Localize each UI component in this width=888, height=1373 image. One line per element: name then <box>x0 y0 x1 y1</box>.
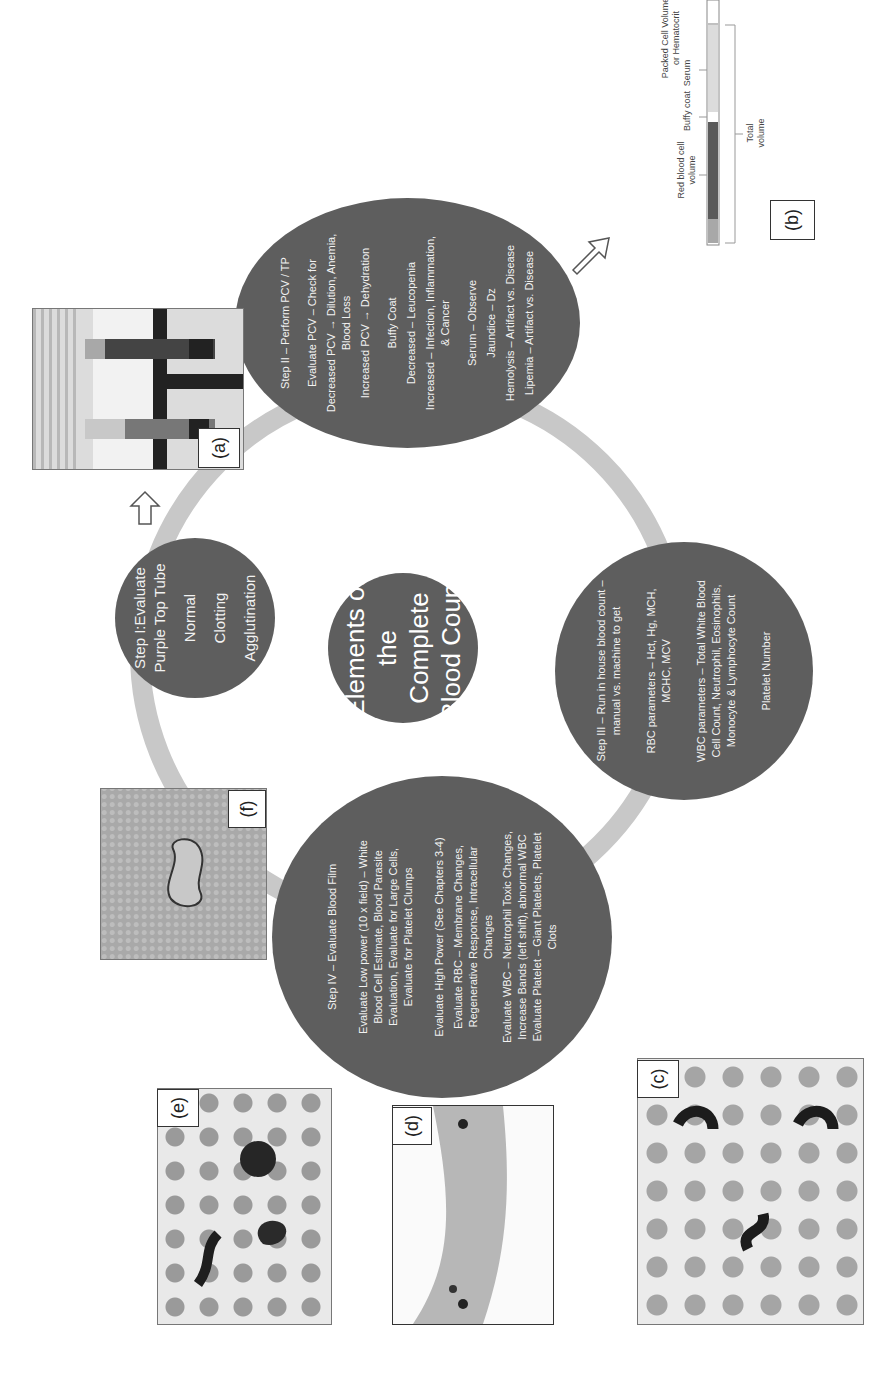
step2-line: Hemolysis – Artifact vs. Disease <box>503 245 518 402</box>
cbc-diagram-page: Elements of the Complete Blood Count Ste… <box>0 0 888 1373</box>
center-title-line: Blood Count <box>435 576 467 719</box>
step2-line: Serum – Observe <box>465 280 480 366</box>
cell-illustration <box>638 1059 863 1324</box>
neutrophil-smear-photo-c <box>637 1058 864 1325</box>
buffy-coat-label: Buffy coat <box>682 81 693 141</box>
arrow-icon <box>125 488 165 528</box>
step2-line: Jaundice – Dz <box>484 288 499 358</box>
step3-wbc: WBC parameters – Total White Blood <box>694 580 709 762</box>
step4-wbc: Increase Bands (left shift), abnormal WB… <box>515 834 530 1039</box>
step3-platelet: Platelet Number <box>759 632 774 711</box>
step2-line: & Cancer <box>438 300 453 346</box>
figure-label-b: (b) <box>770 200 815 240</box>
center-title-line: Complete <box>403 592 435 703</box>
step2-line: Decreased PCV → Dilution, Anemia, <box>324 234 339 413</box>
step4-low-power: Evaluate Low power (10 x field) – White <box>356 840 371 1034</box>
step4-low-power: Evaluation, Evaluate for Large Cells, <box>386 848 401 1026</box>
step3-circle: Step III – Run in house blood count – ma… <box>555 542 813 800</box>
step2-line: Decreased – Leucopenia <box>404 262 419 384</box>
step4-title: Step IV – Evaluate Blood Film <box>325 864 340 1010</box>
center-circle: Elements of the Complete Blood Count <box>328 573 478 723</box>
step1-item: Normal <box>180 594 200 642</box>
step4-rbc: Regenerative Response, Intracellular <box>466 847 481 1028</box>
center-title-line: the <box>371 630 403 666</box>
rbc-volume-label: Red blood cell volume <box>676 135 698 205</box>
figure-label-d: (d) <box>392 1107 432 1145</box>
step4-platelet: Evaluate Platelet – Giant Platelets, Pla… <box>530 832 545 1041</box>
step3-rbc: RBC parameters – Hct, Hg, MCH, <box>644 588 659 753</box>
step4-rbc: Changes <box>481 915 496 959</box>
figure-label-c: (c) <box>637 1060 679 1098</box>
step3-rbc: MCHC, MCV <box>659 639 674 703</box>
step2-title: Step II – Perform PCV / TP <box>278 257 293 389</box>
step4-wbc: Evaluate WBC – Neutrophil Toxic Changes, <box>500 831 515 1043</box>
step2-line: Lipemia – Artifact vs. Disease <box>522 251 537 395</box>
rbc-volume-line: volume <box>687 135 698 205</box>
step2-line: Evaluate PCV – Check for <box>305 259 320 387</box>
step1-title: Step I:Evaluate <box>130 567 150 669</box>
step4-platelet: Clots <box>545 924 560 949</box>
figure-label-a: (a) <box>198 428 240 468</box>
step2-line: Buffy Coat <box>385 297 400 348</box>
step3-title: Step III – Run in house blood count – <box>594 580 609 761</box>
step4-circle: Step IV – Evaluate Blood Film Evaluate L… <box>272 776 612 1098</box>
rbc-volume-line: Red blood cell <box>676 135 687 205</box>
step1-circle: Step I:Evaluate Purple Top Tube Normal C… <box>115 538 275 698</box>
step4-low-power: Evaluate for Platelet Clumps <box>401 868 416 1007</box>
total-volume-label: Total volume <box>745 108 767 158</box>
step4-low-power: Blood Cell Estimate, Blood Parasite <box>371 850 386 1024</box>
step3-wbc: Monocyte & Lymphocyte Count <box>724 595 739 747</box>
step4-high-power: Evaluate High Power (See Chapters 3-4) <box>432 837 447 1036</box>
hematocrit-title-line: or Hematocrit <box>671 0 682 83</box>
step2-line: Blood Loss <box>339 296 354 350</box>
step3-wbc: Cell Count, Neutrophil, Eosinophils, <box>709 584 724 757</box>
step1-item: Agglutination <box>240 575 260 662</box>
step2-line: Increased – Infection, Inflammation, <box>423 236 438 410</box>
total-volume-line: volume <box>756 108 767 158</box>
total-volume-line: Total <box>745 108 756 158</box>
step2-circle: Step II – Perform PCV / TP Evaluate PCV … <box>235 198 580 448</box>
figure-label-f: (f) <box>228 790 266 828</box>
step1-item: Clotting <box>210 593 230 644</box>
step1-title: Purple Top Tube <box>150 564 170 673</box>
hematocrit-title-line: Packed Cell Volume <box>660 0 671 83</box>
center-title-line: Elements of <box>339 579 371 716</box>
step4-rbc: Evaluate RBC – Membrane Changes, <box>451 845 466 1029</box>
step3-title: manual vs. machine to get <box>609 607 624 735</box>
step2-line: Increased PCV → Dehydration <box>358 248 373 398</box>
figure-label-e: (e) <box>157 1089 199 1127</box>
hematocrit-title: Packed Cell Volume or Hematocrit <box>660 0 682 83</box>
